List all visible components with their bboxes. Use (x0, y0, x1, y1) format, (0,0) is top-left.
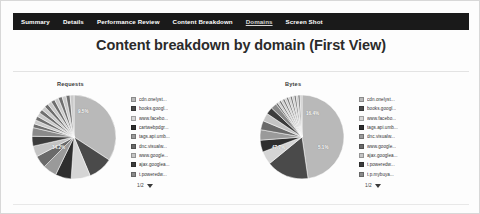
legend-item[interactable]: t.poweredw... (359, 160, 467, 169)
legend-swatch-icon (131, 153, 136, 158)
legend-item[interactable]: books.googl... (131, 104, 239, 113)
legend-label: t.poweredw... (139, 172, 167, 177)
legend-swatch-icon (359, 116, 364, 121)
legend-swatch-icon (359, 106, 364, 111)
nav-item-domains[interactable]: Domains (246, 18, 273, 25)
legend-item[interactable]: dnc.visualw... (359, 132, 467, 141)
footer-divider (13, 204, 469, 205)
legend-item[interactable]: www.google... (131, 151, 239, 160)
pie-chart[interactable]: 47.7%16.4%5.1% (258, 93, 346, 181)
nav-item-summary[interactable]: Summary (21, 18, 50, 25)
legend-pager[interactable]: 1/2 (365, 183, 381, 188)
legend-label: ajax.googlea... (139, 162, 170, 167)
chart-legend: cdn.onelyst...books.googl...www.facebo..… (359, 95, 467, 179)
legend-item[interactable]: www.facebo... (359, 114, 467, 123)
nav-item-performance-review[interactable]: Performance Review (97, 18, 160, 25)
legend-item[interactable]: ajax.googlea... (131, 160, 239, 169)
legend-swatch-icon (131, 144, 136, 149)
main-navigation: SummaryDetailsPerformance ReviewContent … (13, 13, 469, 30)
legend-pager[interactable]: 1/2 (137, 183, 153, 188)
legend-label: cdn.onelyst... (139, 97, 167, 102)
nav-item-content-breakdown[interactable]: Content Breakdown (173, 18, 233, 25)
legend-label: tags.api.umb... (367, 125, 398, 130)
legend-swatch-icon (359, 144, 364, 149)
chart-requests: Requests34.2%9.5%cdn.onelyst...books.goo… (13, 75, 241, 203)
page-title: Content breakdown by domain (First View) (1, 37, 480, 53)
chart-caption: Requests (57, 81, 84, 87)
legend-item[interactable]: ajax.googlea... (359, 151, 467, 160)
chart-bytes: Bytes47.7%16.4%5.1%cdn.onelyst...books.g… (241, 75, 469, 203)
legend-label: cartwebpdgr... (139, 125, 169, 130)
pager-label: 1/2 (365, 183, 372, 188)
legend-swatch-icon (359, 172, 364, 177)
legend-label: dnc.visualw... (367, 134, 395, 139)
legend-swatch-icon (131, 106, 136, 111)
legend-item[interactable]: dnc.visualw... (131, 141, 239, 150)
legend-label: books.googl... (139, 106, 168, 111)
legend-swatch-icon (131, 162, 136, 167)
legend-swatch-icon (131, 125, 136, 130)
legend-label: ajax.googlea... (367, 153, 398, 158)
legend-swatch-icon (131, 116, 136, 121)
chevron-down-icon[interactable] (375, 184, 381, 188)
pager-label: 1/2 (137, 183, 144, 188)
legend-label: www.google... (139, 153, 168, 158)
legend-label: www.google... (367, 144, 396, 149)
legend-swatch-icon (359, 153, 364, 158)
report-page: SummaryDetailsPerformance ReviewContent … (0, 0, 480, 214)
legend-label: www.facebo... (139, 116, 168, 121)
chart-caption: Bytes (285, 81, 301, 87)
legend-label: www.facebo... (367, 116, 396, 121)
legend-swatch-icon (359, 97, 364, 102)
legend-label: cdn.onelyst... (367, 97, 395, 102)
pie-slice[interactable] (302, 95, 344, 179)
charts-container: Requests34.2%9.5%cdn.onelyst...books.goo… (13, 75, 469, 203)
legend-item[interactable]: t.poweredw... (131, 169, 239, 178)
pie-chart[interactable]: 34.2%9.5% (30, 93, 118, 181)
chevron-down-icon[interactable] (147, 184, 153, 188)
legend-item[interactable]: cdn.onelyst... (131, 95, 239, 104)
legend-label: t.poweredw... (367, 162, 395, 167)
legend-swatch-icon (359, 134, 364, 139)
legend-swatch-icon (131, 172, 136, 177)
legend-swatch-icon (131, 134, 136, 139)
header-divider (13, 71, 469, 72)
nav-item-screen-shot[interactable]: Screen Shot (286, 18, 323, 25)
legend-item[interactable]: cdn.onelyst... (359, 95, 467, 104)
legend-swatch-icon (131, 97, 136, 102)
chart-legend: cdn.onelyst...books.googl...www.facebo..… (131, 95, 239, 179)
legend-label: t.p.mybuya... (367, 172, 394, 177)
legend-item[interactable]: books.googl... (359, 104, 467, 113)
legend-item[interactable]: t.p.mybuya... (359, 169, 467, 178)
nav-item-details[interactable]: Details (63, 18, 84, 25)
legend-item[interactable]: www.google... (359, 141, 467, 150)
legend-item[interactable]: tags.api.umb... (359, 123, 467, 132)
legend-item[interactable]: www.facebo... (131, 114, 239, 123)
legend-swatch-icon (359, 162, 364, 167)
legend-label: books.googl... (367, 106, 396, 111)
legend-item[interactable]: cartwebpdgr... (131, 123, 239, 132)
legend-swatch-icon (359, 125, 364, 130)
legend-item[interactable]: tags.api.umb... (131, 132, 239, 141)
legend-label: dnc.visualw... (139, 144, 167, 149)
legend-label: tags.api.umb... (139, 134, 170, 139)
